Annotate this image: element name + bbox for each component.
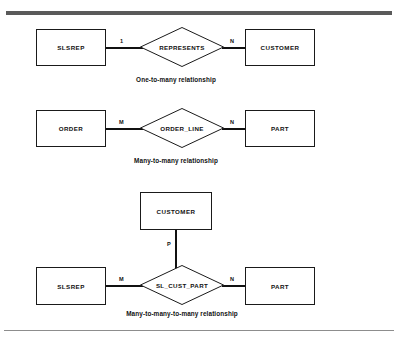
cardinality-left-d3: M	[119, 276, 124, 282]
cardinality-right-d3: N	[230, 276, 234, 282]
entity-slsrep-d3[interactable]: SLSREP	[36, 267, 106, 305]
cardinality-top-d3: P	[167, 241, 171, 247]
diamond-shape	[141, 109, 224, 148]
cardinality-left-d1: 1	[120, 38, 123, 44]
cardinality-right-d2: N	[230, 119, 234, 125]
entity-customer-d3[interactable]: CUSTOMER	[140, 192, 212, 230]
cardinality-right-d1: N	[230, 38, 234, 44]
diamond-shape	[141, 28, 224, 67]
entity-label: ORDER	[59, 125, 84, 132]
relationship-represents[interactable]: REPRESENTS	[140, 27, 224, 67]
caption-diagram-2: Many-to-many relationship	[76, 157, 276, 164]
entity-label: CUSTOMER	[261, 44, 300, 51]
bottom-divider-rule	[4, 330, 394, 331]
entity-label: PART	[271, 125, 289, 132]
connector-slsrep-to-sl-cust-part	[106, 285, 143, 287]
er-diagram-figure: SLSREP REPRESENTS CUSTOMER 1 N One-to-ma…	[0, 0, 398, 347]
entity-part-d3[interactable]: PART	[245, 267, 315, 305]
entity-customer-d1[interactable]: CUSTOMER	[245, 29, 315, 66]
entity-label: PART	[271, 283, 289, 290]
connector-orderline-to-part	[222, 128, 246, 130]
entity-part-d2[interactable]: PART	[245, 110, 315, 147]
diamond-shape	[141, 266, 224, 305]
caption-diagram-1: One-to-many relationship	[76, 76, 276, 83]
connector-order-to-orderline	[106, 128, 143, 130]
entity-slsrep-d1[interactable]: SLSREP	[36, 29, 106, 66]
entity-label: CUSTOMER	[157, 208, 196, 215]
connector-represents-to-customer	[222, 47, 246, 49]
entity-label: SLSREP	[57, 44, 84, 51]
entity-label: SLSREP	[57, 283, 84, 290]
relationship-sl-cust-part[interactable]: SL_CUST_PART	[140, 265, 224, 305]
cardinality-left-d2: M	[119, 119, 124, 125]
relationship-order-line[interactable]: ORDER_LINE	[140, 108, 224, 148]
caption-diagram-3: Many-to-many-to-many relationship	[82, 310, 282, 317]
entity-order-d2[interactable]: ORDER	[36, 110, 106, 147]
top-divider-rule	[6, 11, 392, 15]
connector-slsrep-to-represents	[106, 47, 143, 49]
connector-sl-cust-part-to-part	[222, 285, 246, 287]
